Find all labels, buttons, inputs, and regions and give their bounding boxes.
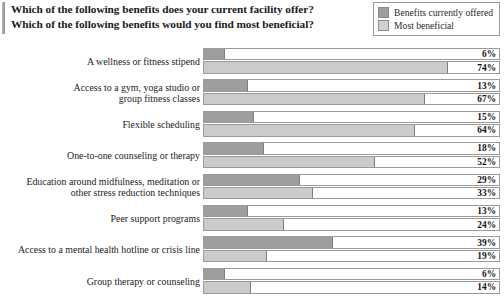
bar-beneficial	[204, 125, 415, 135]
bar-beneficial	[204, 94, 425, 104]
category-label: One-to-one counseling or therapy	[6, 140, 200, 171]
bar-value-label: 29%	[477, 175, 496, 185]
bar-value-label: 19%	[477, 251, 496, 261]
bar-value-label: 13%	[477, 81, 496, 91]
bar-rows: 29%33%	[203, 174, 500, 201]
bar-row: 14%	[203, 281, 500, 293]
bar-beneficial	[204, 282, 251, 292]
bar-row: 33%	[203, 187, 500, 199]
category-label-line: Education around midfulness, meditation …	[26, 176, 200, 187]
category-label-line: Access to a gym, yoga studio or	[74, 82, 200, 93]
bar-row: 52%	[203, 156, 500, 168]
bar-beneficial	[204, 251, 267, 261]
bar-group: Education around midfulness, meditation …	[0, 172, 504, 203]
bar-offered	[204, 206, 248, 216]
category-label: Education around midfulness, meditation …	[6, 172, 200, 203]
bar-row: 64%	[203, 124, 500, 136]
bar-row: 6%	[203, 268, 500, 280]
bar-value-label: 33%	[477, 188, 496, 198]
bar-offered	[204, 80, 248, 90]
category-label: Peer support programs	[6, 203, 200, 234]
chart-plot-area: A wellness or fitness stipend6%74%Access…	[0, 46, 504, 298]
bar-value-label: 24%	[477, 220, 496, 230]
bar-offered	[204, 175, 300, 185]
bar-group: Peer support programs13%24%	[0, 203, 504, 234]
bar-group: A wellness or fitness stipend6%74%	[0, 46, 504, 77]
bar-offered	[204, 112, 254, 122]
title-lines: Which of the following benefits does you…	[11, 2, 314, 31]
legend-item-offered: Benefits currently offered	[378, 6, 493, 18]
bar-row: 19%	[203, 250, 500, 262]
bar-offered	[204, 143, 264, 153]
bar-value-label: 13%	[477, 206, 496, 216]
bar-rows: 13%24%	[203, 205, 500, 232]
bar-group: Flexible scheduling15%64%	[0, 109, 504, 140]
category-label-line: Flexible scheduling	[122, 119, 200, 130]
bar-row: 6%	[203, 48, 500, 60]
category-label: Group therapy or counseling	[6, 266, 200, 297]
bar-value-label: 6%	[482, 49, 496, 59]
bar-value-label: 74%	[477, 63, 496, 73]
bar-value-label: 18%	[477, 143, 496, 153]
bar-row: 13%	[203, 205, 500, 217]
legend-swatch-offered-icon	[378, 7, 389, 18]
title-accent-bar	[2, 2, 5, 34]
category-label-line: Peer support programs	[111, 213, 200, 224]
bar-value-label: 15%	[477, 112, 496, 122]
bar-row: 15%	[203, 111, 500, 123]
bar-group: Access to a mental health hotline or cri…	[0, 234, 504, 265]
bar-value-label: 67%	[477, 94, 496, 104]
category-label-line: other stress reduction techniques	[71, 187, 200, 198]
chart-title-block: Which of the following benefits does you…	[0, 2, 360, 36]
bar-offered	[204, 237, 333, 247]
category-label: Access to a mental health hotline or cri…	[6, 234, 200, 265]
category-label: A wellness or fitness stipend	[6, 46, 200, 77]
chart-container: Which of the following benefits does you…	[0, 0, 504, 299]
bar-beneficial	[204, 157, 375, 167]
bar-rows: 13%67%	[203, 79, 500, 106]
bar-group: Group therapy or counseling6%14%	[0, 266, 504, 297]
bar-beneficial	[204, 62, 448, 72]
legend-item-beneficial: Most beneficial	[378, 19, 493, 31]
bar-rows: 39%19%	[203, 236, 500, 263]
bar-beneficial	[204, 188, 313, 198]
page-title-line-1: Which of the following benefits does you…	[11, 2, 314, 17]
category-label-line: Access to a mental health hotline or cri…	[18, 244, 200, 255]
bar-offered	[204, 49, 225, 59]
bar-rows: 6%14%	[203, 268, 500, 295]
bar-row: 29%	[203, 174, 500, 186]
category-label-line: Group therapy or counseling	[87, 276, 200, 287]
category-label: Access to a gym, yoga studio orgroup fit…	[6, 77, 200, 108]
bar-row: 74%	[203, 61, 500, 73]
bar-rows: 15%64%	[203, 111, 500, 138]
legend-swatch-beneficial-icon	[378, 20, 389, 31]
bar-offered	[204, 269, 225, 279]
bar-beneficial	[204, 219, 284, 229]
category-label: Flexible scheduling	[6, 109, 200, 140]
bar-value-label: 6%	[482, 269, 496, 279]
bar-group: Access to a gym, yoga studio orgroup fit…	[0, 77, 504, 108]
category-label-line: One-to-one counseling or therapy	[67, 150, 200, 161]
bar-row: 39%	[203, 236, 500, 248]
legend-label-beneficial: Most beneficial	[394, 20, 454, 31]
category-label-line: A wellness or fitness stipend	[87, 56, 200, 67]
bar-value-label: 64%	[477, 125, 496, 135]
bar-rows: 6%74%	[203, 48, 500, 75]
page-title-line-2: Which of the following benefits would yo…	[11, 17, 314, 32]
bar-value-label: 39%	[477, 238, 496, 248]
bar-rows: 18%52%	[203, 142, 500, 169]
bar-value-label: 14%	[477, 282, 496, 292]
bar-row: 67%	[203, 93, 500, 105]
bar-value-label: 52%	[477, 157, 496, 167]
legend-label-offered: Benefits currently offered	[394, 7, 493, 18]
bar-row: 24%	[203, 218, 500, 230]
category-label-line: group fitness classes	[119, 93, 200, 104]
bar-row: 18%	[203, 142, 500, 154]
chart-legend: Benefits currently offered Most benefici…	[373, 2, 500, 36]
bar-row: 13%	[203, 79, 500, 91]
bar-group: One-to-one counseling or therapy18%52%	[0, 140, 504, 171]
